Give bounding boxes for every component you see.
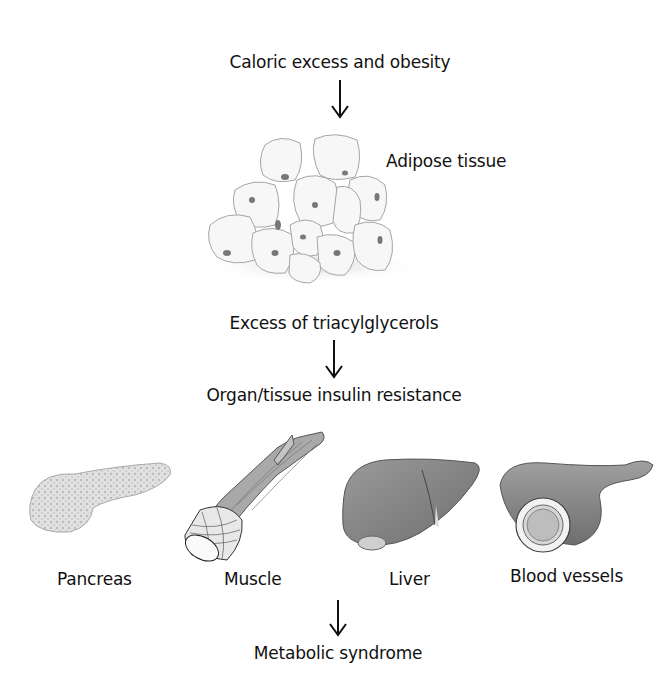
muscle-illustration	[182, 430, 327, 565]
liver-label: Liver	[389, 569, 430, 589]
step-excess-triacylglycerols: Excess of triacylglycerols	[230, 313, 439, 333]
down-arrow-icon	[324, 338, 344, 380]
blood-vessel-illustration	[495, 455, 655, 560]
muscle-label: Muscle	[224, 569, 282, 589]
down-arrow-icon	[328, 598, 348, 638]
step-metabolic-syndrome: Metabolic syndrome	[254, 643, 423, 663]
pancreas-label: Pancreas	[57, 569, 132, 589]
step-insulin-resistance: Organ/tissue insulin resistance	[206, 385, 461, 405]
adipose-tissue-label: Adipose tissue	[386, 151, 506, 171]
step-caloric-excess: Caloric excess and obesity	[230, 52, 451, 72]
pancreas-illustration	[25, 460, 175, 535]
down-arrow-icon	[330, 78, 350, 120]
blood-vessels-label: Blood vessels	[510, 566, 623, 586]
liver-illustration	[340, 455, 485, 555]
adipose-tissue-illustration	[205, 125, 415, 285]
